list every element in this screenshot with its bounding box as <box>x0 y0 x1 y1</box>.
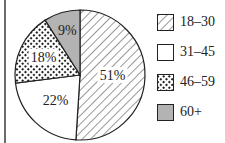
legend-item-60-plus: 60+ <box>157 103 215 121</box>
legend-label: 46–59 <box>180 74 215 90</box>
legend-item-46-59: 46–59 <box>157 73 215 91</box>
legend-swatch-gray <box>157 104 174 121</box>
legend-swatch-hatched <box>157 14 174 31</box>
legend-item-18-30: 18–30 <box>157 13 215 31</box>
pie-label: 51% <box>100 68 126 83</box>
legend-label: 60+ <box>180 104 202 120</box>
legend-swatch-dotted <box>157 74 174 91</box>
legend-label: 18–30 <box>180 14 215 30</box>
pie-label: 9% <box>58 23 77 38</box>
legend-label: 31–45 <box>180 44 215 60</box>
pie-label: 18% <box>31 50 57 65</box>
legend: 18–30 31–45 46–59 60+ <box>157 13 215 133</box>
legend-item-31-45: 31–45 <box>157 43 215 61</box>
pie-label: 22% <box>43 93 69 108</box>
legend-swatch-white <box>157 44 174 61</box>
